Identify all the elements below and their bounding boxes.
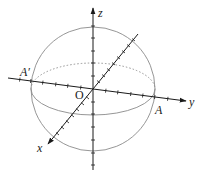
point-a-prime-label: A′ (19, 65, 30, 79)
origin-label: O (75, 88, 84, 102)
sphere-coordinate-diagram: z y x O A A′ (0, 0, 198, 174)
x-axis-label: x (36, 141, 43, 155)
z-axis-label: z (97, 6, 103, 20)
y-axis-label: y (188, 95, 195, 109)
point-a-label: A (154, 103, 163, 117)
